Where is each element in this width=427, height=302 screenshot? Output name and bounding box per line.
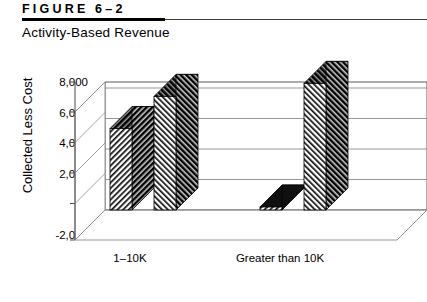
figure-label: FIGURE 6–2 xyxy=(22,2,427,16)
plot-floor xyxy=(75,210,427,240)
figure-header: FIGURE 6–2 Activity-Based Revenue xyxy=(22,2,427,16)
chart-container: Collected Less Cost 8,000 6,000 4,000 2,… xyxy=(0,60,427,302)
figure-rule-thick xyxy=(22,18,165,21)
bar-group1-method2 xyxy=(154,74,198,210)
y-axis xyxy=(70,82,75,240)
plot-area xyxy=(0,60,427,302)
figure-subtitle: Activity-Based Revenue xyxy=(22,25,170,40)
bar-group1-method1 xyxy=(110,107,154,210)
figure-rule-thin xyxy=(165,19,427,20)
bar-group2-method2 xyxy=(304,61,348,210)
